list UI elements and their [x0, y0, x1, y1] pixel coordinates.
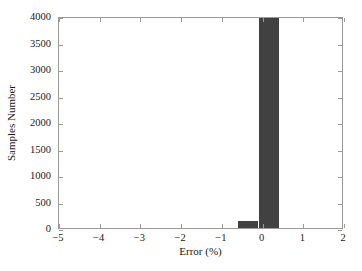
y-axis-tick-label: 3000	[30, 64, 51, 76]
y-axis-tick	[59, 124, 63, 125]
y-axis-tick	[59, 230, 63, 231]
y-axis-tick-right	[338, 98, 342, 99]
x-axis-title: Error (%)	[58, 245, 343, 258]
histogram-figure: Samples Number 0500100015002000250030003…	[0, 0, 362, 271]
histogram-bar	[259, 18, 279, 228]
y-axis-tick	[59, 71, 63, 72]
x-axis-tick-label: −1	[215, 232, 226, 244]
x-axis-tick-top	[303, 18, 304, 22]
y-axis-tick-label: 2500	[30, 91, 51, 103]
y-axis-tick-label: 4000	[30, 11, 51, 23]
y-axis-tick-right	[338, 230, 342, 231]
y-axis-tick-right	[338, 71, 342, 72]
x-axis-tick-top	[222, 18, 223, 22]
y-axis-tick-label: 2000	[30, 117, 51, 129]
x-axis-tick-label: 0	[259, 232, 264, 244]
x-axis-tick-label: −3	[134, 232, 145, 244]
bars-layer	[59, 18, 342, 228]
x-axis-tick-top	[344, 18, 345, 22]
plot-area	[58, 17, 343, 229]
x-axis-tick	[344, 224, 345, 228]
y-axis-tick-right	[338, 204, 342, 205]
y-axis-tick-label: 1000	[30, 170, 51, 182]
y-axis-tick-right	[338, 18, 342, 19]
x-axis-tick-label: 2	[340, 232, 345, 244]
x-axis-tick	[59, 224, 60, 228]
y-axis-tick-label: 1500	[30, 144, 51, 156]
x-axis-tick-top	[181, 18, 182, 22]
y-axis-tick	[59, 177, 63, 178]
y-axis-tick	[59, 204, 63, 205]
x-axis-tick	[100, 224, 101, 228]
histogram-bar	[238, 221, 258, 228]
x-axis-tick	[303, 224, 304, 228]
y-axis-title-text: Samples Number	[5, 85, 17, 161]
y-axis-tick-right	[338, 45, 342, 46]
y-axis-title: Samples Number	[3, 17, 19, 229]
y-axis-tick-right	[338, 124, 342, 125]
x-axis-tick	[263, 224, 264, 228]
y-axis-tick	[59, 98, 63, 99]
x-axis-tick	[181, 224, 182, 228]
x-axis-tick-label: −5	[52, 232, 63, 244]
x-axis-tick	[222, 224, 223, 228]
x-axis-tick-top	[100, 18, 101, 22]
x-axis-tick-label: −2	[175, 232, 186, 244]
y-axis-tick-label: 3500	[30, 38, 51, 50]
x-axis-tick-label: 1	[300, 232, 305, 244]
y-axis-tick-label: 0	[46, 223, 51, 235]
x-axis-tick-label: −4	[93, 232, 104, 244]
y-axis-tick-right	[338, 177, 342, 178]
x-axis-tick-top	[263, 18, 264, 22]
y-axis-tick	[59, 45, 63, 46]
y-axis-tick	[59, 18, 63, 19]
y-axis-tick-right	[338, 151, 342, 152]
x-axis-tick	[140, 224, 141, 228]
y-axis-tick	[59, 151, 63, 152]
y-axis-tick-label: 500	[35, 197, 51, 209]
x-axis-tick-top	[140, 18, 141, 22]
